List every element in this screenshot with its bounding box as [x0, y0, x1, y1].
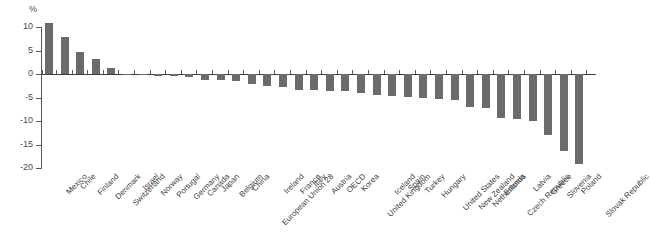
x-axis-tick	[352, 70, 353, 74]
x-axis-tick	[415, 70, 416, 74]
x-axis-tick	[555, 70, 556, 74]
bar	[466, 74, 474, 107]
y-axis-tick-label: 0	[0, 69, 33, 78]
y-axis-tick	[36, 74, 42, 75]
x-axis-tick	[368, 70, 369, 74]
x-axis-tick	[290, 70, 291, 74]
x-axis-tick	[181, 70, 182, 74]
y-axis-tick-label: 10	[0, 22, 33, 31]
bar	[419, 74, 427, 98]
bar	[310, 74, 318, 90]
x-axis-tick	[462, 70, 463, 74]
x-axis-tick	[306, 70, 307, 74]
x-axis-tick	[243, 70, 244, 74]
bar	[373, 74, 381, 95]
y-axis-tick-label: 5	[0, 46, 33, 55]
x-axis-tick	[118, 70, 119, 74]
x-axis-tick	[134, 70, 135, 74]
x-axis-tick	[87, 70, 88, 74]
bar	[482, 74, 490, 108]
x-axis-tick	[165, 70, 166, 74]
x-axis-tick	[212, 70, 213, 74]
x-axis-tick	[446, 70, 447, 74]
x-axis-tick	[228, 70, 229, 74]
bar	[357, 74, 365, 93]
bar	[497, 74, 505, 118]
bar	[435, 74, 443, 99]
x-axis-tick	[337, 70, 338, 74]
bar	[170, 74, 178, 76]
x-axis-category-label: Slovak Republic	[604, 172, 651, 219]
x-axis-tick	[42, 70, 43, 74]
x-axis-tick	[259, 70, 260, 74]
bar	[232, 74, 240, 81]
x-axis-tick	[493, 70, 494, 74]
bar	[544, 74, 552, 135]
x-axis-tick	[72, 70, 73, 74]
bar	[76, 52, 84, 74]
bar	[139, 74, 147, 75]
bar	[217, 74, 225, 80]
x-axis-tick	[586, 70, 587, 74]
bar	[575, 74, 583, 164]
bar	[123, 74, 131, 75]
x-axis-tick	[196, 70, 197, 74]
x-axis-tick	[508, 70, 509, 74]
x-axis-tick	[399, 70, 400, 74]
y-axis-tick-label: -20	[0, 163, 33, 172]
bar	[451, 74, 459, 100]
bar	[45, 23, 53, 74]
bar	[341, 74, 349, 91]
bar	[326, 74, 334, 91]
y-axis-tick	[36, 98, 42, 99]
x-axis-tick	[571, 70, 572, 74]
x-axis-tick	[56, 70, 57, 74]
x-axis-tick	[430, 70, 431, 74]
x-axis-tick	[150, 70, 151, 74]
bar	[263, 74, 271, 86]
bar	[107, 68, 115, 74]
bar	[404, 74, 412, 97]
y-axis-tick-label: -10	[0, 116, 33, 125]
x-axis-tick	[384, 70, 385, 74]
bar	[61, 37, 69, 74]
x-axis-tick	[477, 70, 478, 74]
bar	[154, 74, 162, 76]
y-axis-tick-label: -5	[0, 93, 33, 102]
bar	[201, 74, 209, 80]
y-axis-tick	[36, 27, 42, 28]
y-axis-tick	[36, 145, 42, 146]
x-axis-tick	[274, 70, 275, 74]
x-axis-tick	[540, 70, 541, 74]
x-axis-tick	[103, 70, 104, 74]
x-axis-tick	[524, 70, 525, 74]
x-axis-tick	[321, 70, 322, 74]
bar	[295, 74, 303, 90]
y-axis-unit-label: %	[29, 4, 37, 14]
bar	[513, 74, 521, 119]
bar	[388, 74, 396, 96]
bar	[529, 74, 537, 121]
bar	[279, 74, 287, 87]
y-axis-tick	[36, 168, 42, 169]
bar	[185, 74, 193, 77]
bar	[560, 74, 568, 151]
y-axis-tick	[36, 121, 42, 122]
bar	[92, 59, 100, 74]
bar	[248, 74, 256, 84]
y-axis-tick-label: -15	[0, 140, 33, 149]
y-axis-tick	[36, 51, 42, 52]
